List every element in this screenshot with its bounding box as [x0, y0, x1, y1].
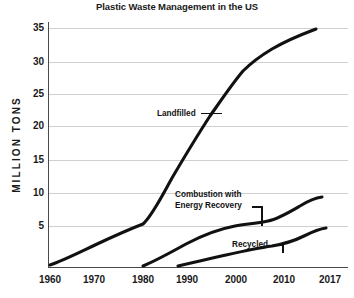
series-label-recycled: Recycled — [232, 240, 268, 251]
chart-container: Plastic Waste Management in the US MILLI… — [0, 0, 354, 298]
series-label-combustion-line2: Energy Recovery — [175, 201, 242, 210]
plot-area — [0, 0, 354, 298]
series-line-landfilled — [50, 29, 316, 265]
series-label-combustion-line1: Combustion with — [175, 190, 241, 199]
series-label-landfilled: Landfilled — [157, 109, 196, 120]
series-label-combustion: Combustion with Energy Recovery — [175, 190, 242, 211]
